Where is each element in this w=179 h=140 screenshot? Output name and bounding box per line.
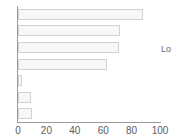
x-axis-line <box>17 122 161 123</box>
bar-row <box>18 92 160 103</box>
bar-chart: 020406080100 Lo <box>0 0 179 140</box>
bar <box>18 59 107 70</box>
side-note-text: Lo <box>161 43 179 55</box>
bar <box>18 75 22 86</box>
x-tick-label: 20 <box>41 124 52 138</box>
bar <box>18 25 120 36</box>
x-axis-tick-labels: 020406080100 <box>0 124 179 140</box>
x-tick-label: 100 <box>152 124 169 138</box>
bar <box>18 92 31 103</box>
plot-area <box>18 6 160 122</box>
y-axis-line <box>17 6 18 122</box>
bar-row <box>18 25 160 36</box>
bar-row <box>18 42 160 53</box>
x-tick-label: 40 <box>69 124 80 138</box>
bar <box>18 42 119 53</box>
bar-row <box>18 9 160 20</box>
bar-row <box>18 75 160 86</box>
bar <box>18 108 32 119</box>
x-tick-label: 60 <box>98 124 109 138</box>
bar <box>18 9 143 20</box>
bar-row <box>18 108 160 119</box>
x-tick-label: 0 <box>15 124 21 138</box>
x-tick-label: 80 <box>126 124 137 138</box>
bar-row <box>18 59 160 70</box>
